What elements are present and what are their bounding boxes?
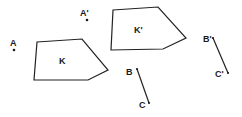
diagram-svg: K K' A A' B C B' C' [0, 0, 242, 117]
segment-bc-prime [213, 38, 228, 73]
point-b-prime-label: B' [203, 34, 212, 44]
point-a [13, 49, 16, 52]
polygon-k-prime [111, 7, 186, 50]
point-a-prime [86, 19, 89, 22]
point-c-prime-label: C' [215, 69, 224, 79]
polygon-k [34, 39, 108, 80]
polygon-k-prime-label: K' [134, 25, 143, 35]
point-c-prime [227, 72, 229, 74]
point-a-label: A [10, 38, 17, 48]
point-c-label: C [139, 100, 146, 110]
point-b [136, 68, 138, 70]
point-a-prime-label: A' [80, 8, 89, 18]
segment-bc [137, 69, 149, 103]
point-b-label: B [126, 67, 133, 77]
polygon-k-label: K [59, 56, 66, 66]
diagram-canvas: K K' A A' B C B' C' [0, 0, 242, 117]
point-c [148, 102, 150, 104]
point-b-prime [212, 37, 214, 39]
